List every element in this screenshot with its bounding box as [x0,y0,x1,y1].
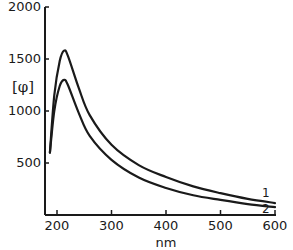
y-tick-label: 1000 [8,103,41,118]
plot-lines [50,50,275,207]
x-tick-label: 300 [99,218,124,233]
series-label-2: 2 [262,202,270,216]
y-tick-label: 2000 [8,0,41,14]
x-tick-label: 600 [263,218,288,233]
y-axis-label: [φ] [12,78,34,96]
series-label-1: 1 [262,186,270,200]
x-tick-label: 400 [154,218,179,233]
x-tick-label: 500 [208,218,233,233]
x-axis-label: nm [156,235,177,250]
x-tick-label: 200 [45,218,70,233]
y-tick-label: 500 [16,155,41,170]
cd-spectrum-chart: 500100015002000200300400500600 [φ] nm 1 … [0,0,293,250]
y-tick-label: 1500 [8,51,41,66]
